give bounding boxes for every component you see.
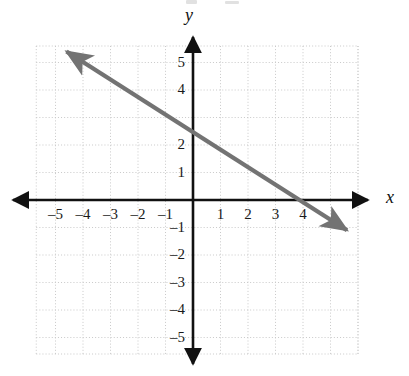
x-tick-label: 3	[262, 207, 290, 222]
x-tick-label: –5	[42, 207, 70, 222]
x-tick-label: –3	[97, 207, 125, 222]
y-tick-label: –2	[159, 247, 185, 262]
y-tick-label: 5	[159, 55, 185, 70]
x-tick-label: 4	[289, 207, 317, 222]
x-axis-label: x	[386, 188, 394, 206]
coordinate-plane-figure: –5–4–3–2–11234 54321–1–2–3–4–5 x y	[0, 0, 409, 376]
x-tick-label: 1	[207, 207, 235, 222]
x-tick-label: –4	[69, 207, 97, 222]
linear-function-line	[67, 52, 348, 231]
y-tick-label: 2	[159, 137, 185, 152]
y-tick-label: –5	[159, 330, 185, 345]
graph-canvas	[0, 0, 409, 376]
y-tick-label: –1	[159, 220, 185, 235]
y-tick-label: 1	[159, 165, 185, 180]
axis-lines	[13, 37, 368, 364]
plotted-line-series	[67, 52, 348, 231]
y-tick-label: –3	[159, 275, 185, 290]
x-tick-label: 2	[234, 207, 262, 222]
x-tick-label: –2	[124, 207, 152, 222]
y-axis-label: y	[185, 6, 193, 24]
y-tick-label: 4	[159, 82, 185, 97]
y-tick-label: –4	[159, 302, 185, 317]
